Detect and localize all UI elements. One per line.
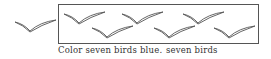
bird-icon[interactable]	[63, 10, 107, 24]
bird-icon[interactable]	[213, 24, 257, 38]
bird-icon[interactable]	[182, 10, 226, 24]
worksheet: Color seven birds blue. seven birds	[0, 0, 271, 59]
bird-icon[interactable]	[153, 24, 197, 38]
instruction-text: Color seven birds blue.	[58, 45, 162, 55]
answer-label: seven birds	[166, 45, 218, 55]
bird-icon[interactable]	[14, 18, 58, 32]
bird-icon[interactable]	[121, 10, 165, 24]
bird-icon[interactable]	[91, 24, 135, 38]
